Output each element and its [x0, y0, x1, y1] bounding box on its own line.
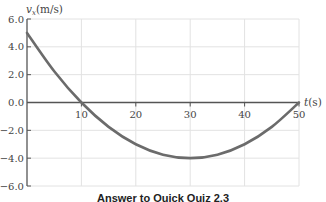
x-tick-label: 30 — [184, 109, 197, 120]
figure-caption: Answer to Quick Quiz 2.3 — [0, 192, 326, 202]
x-axis-label: t(s) — [304, 96, 322, 108]
x-tick-label: 40 — [238, 109, 251, 120]
y-tick-label: 6.0 — [8, 14, 24, 25]
series-line-v_x — [27, 33, 299, 158]
x-tick-label: 10 — [75, 109, 88, 120]
series-layer — [27, 33, 299, 158]
y-tick-label: −6.0 — [0, 181, 24, 192]
x-tick-label: 20 — [129, 109, 142, 120]
y-axis-label: vx(m/s) — [26, 3, 63, 17]
y-tick-label: 2.0 — [8, 69, 24, 80]
y-tick-label: −2.0 — [0, 125, 24, 136]
y-tick-label: −4.0 — [0, 153, 24, 164]
y-tick-labels: 6.04.02.00.0−2.0−4.0−6.0 — [0, 14, 24, 192]
x-tick-label: 50 — [293, 109, 306, 120]
velocity-time-chart: 6.04.02.00.0−2.0−4.0−6.0 1020304050 vx(m… — [0, 0, 326, 202]
x-tick-labels: 1020304050 — [75, 109, 305, 120]
y-tick-label: 4.0 — [8, 41, 24, 52]
axes — [27, 19, 299, 186]
y-tick-label: 0.0 — [8, 97, 24, 108]
